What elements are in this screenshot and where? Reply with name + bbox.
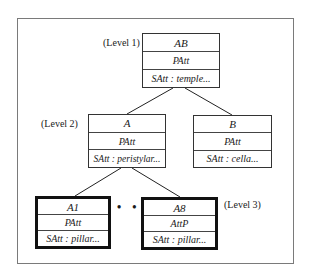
node-b-title: B: [194, 116, 271, 132]
node-a-satt: SAtt : peristylar...: [89, 149, 165, 167]
node-a8: A8 AttP SAtt : pillar...: [141, 197, 218, 250]
level-2-label: (Level 2): [41, 118, 78, 129]
node-a8-satt: SAtt : pillar...: [144, 231, 215, 247]
node-b: B PAtt SAtt : cella...: [193, 115, 272, 168]
node-ab: AB PAtt SAtt : temple...: [142, 33, 220, 88]
node-a: A PAtt SAtt : peristylar...: [88, 114, 166, 168]
node-a-patt: PAtt: [89, 132, 165, 150]
node-b-patt: PAtt: [194, 132, 271, 149]
node-ab-satt: SAtt : temple...: [143, 69, 219, 87]
node-a8-patt: AttP: [144, 215, 215, 231]
node-a8-title: A8: [144, 200, 215, 215]
node-ab-title: AB: [143, 34, 219, 51]
level-3-label: (Level 3): [224, 199, 261, 210]
node-a1-patt: PAtt: [38, 214, 108, 230]
node-a-title: A: [89, 115, 165, 132]
node-a1-title: A1: [38, 199, 108, 214]
node-a1-satt: SAtt : pillar...: [38, 230, 108, 246]
level-1-label: (Level 1): [103, 37, 140, 48]
node-b-satt: SAtt : cella...: [194, 150, 271, 167]
node-ab-patt: PAtt: [143, 51, 219, 69]
node-a1: A1 PAtt SAtt : pillar...: [35, 196, 111, 249]
